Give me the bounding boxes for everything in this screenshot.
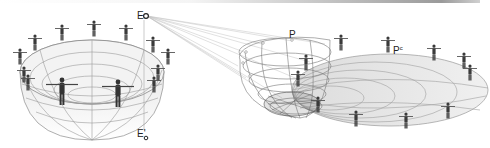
eye-point-marker (144, 14, 149, 19)
label-p: P (289, 30, 296, 40)
label-p-prime-sup: c (400, 45, 403, 51)
label-p-prime: Pc (393, 45, 403, 56)
diagram-canvas (0, 0, 490, 148)
right-anamorphic-surface (292, 54, 488, 126)
label-e-prime: E' (137, 129, 146, 139)
label-p-prime-base: P (393, 45, 400, 56)
label-e: E (137, 11, 144, 21)
left-hemisphere-bowl (20, 40, 164, 140)
